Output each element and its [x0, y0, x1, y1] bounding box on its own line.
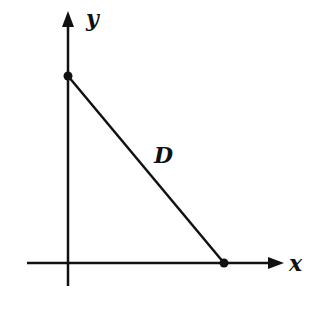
y-intercept-point [64, 72, 73, 81]
x-intercept-point [220, 259, 229, 268]
diagram-canvas: y x D [0, 0, 323, 317]
x-axis-label: x [288, 250, 303, 276]
x-axis [27, 257, 284, 269]
x-axis-arrow-icon [268, 257, 284, 269]
y-axis [62, 11, 74, 286]
segment-label: D [153, 142, 173, 168]
segment-d [68, 76, 224, 263]
y-axis-arrow-icon [62, 11, 74, 27]
y-axis-label: y [85, 5, 101, 31]
